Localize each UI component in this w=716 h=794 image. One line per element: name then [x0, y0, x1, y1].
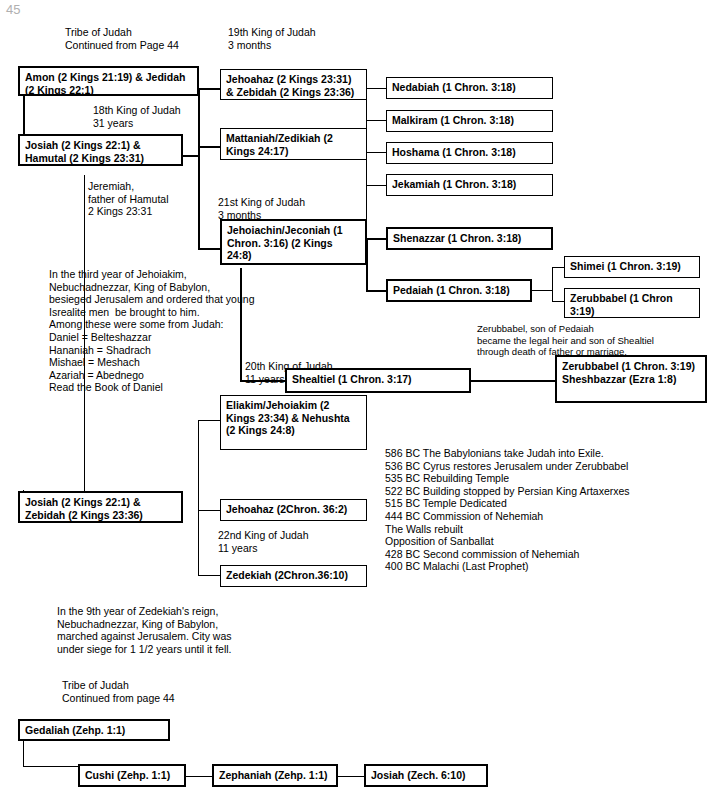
diagram-page: 45 Tribe of Judah Continued from Page 44… — [0, 0, 716, 794]
connector-spine-jehoahaz — [198, 88, 220, 90]
page-number: 45 — [6, 2, 20, 17]
box-malkiram[interactable]: Malkiram (1 Chron. 3:18) — [386, 110, 553, 132]
box-zerubbabel-sheshbazzar[interactable]: Zerubbabel (1 Chron. 3:19) Sheshbazzar (… — [555, 355, 707, 403]
box-jehoahaz-zebidah[interactable]: Jehoahaz (2 Kings 23:31) & Zebidah (2 Ki… — [220, 69, 367, 100]
connector-zedekiah — [198, 575, 220, 576]
connector-malkiram — [366, 120, 386, 121]
king22-label: 22nd King of Judah 11 years — [218, 529, 309, 554]
box-jehoiachin-jeconiah[interactable]: Jehoiachin/Jeconiah (1 Chron. 3:16) (2 K… — [220, 219, 367, 265]
tribe-of-judah-bottom-label: Tribe of Judah Continued from page 44 — [62, 679, 175, 704]
connector-cushi-zephaniah — [186, 776, 212, 777]
connector-jz-spine-h1 — [198, 510, 220, 511]
connector-gedaliah-cushi-h — [23, 766, 78, 767]
connector-pedaiah — [366, 290, 386, 292]
note-timeline: 586 BC The Babylonians take Judah into E… — [385, 447, 630, 573]
box-josiah-zech[interactable]: Josiah (Zech. 6:10) — [364, 764, 488, 787]
connector-josiah-spine — [182, 155, 198, 157]
connector-amon-josiah — [23, 95, 25, 135]
box-josiah-zebidah[interactable]: Josiah (2 Kings 22:1) & Zebidah (2 Kings… — [18, 491, 183, 523]
box-mattaniah-zedikiah[interactable]: Mattaniah/Zedikiah (2 Kings 24:17) — [220, 128, 367, 160]
box-nedabiah[interactable]: Nedabiah (1 Chron. 3:18) — [386, 77, 553, 99]
note-zedekiah-siege: In the 9th year of Zedekiah's reign, Neb… — [57, 605, 232, 655]
connector-jz-spine — [198, 420, 199, 575]
box-zerubbabel-small[interactable]: Zerubbabel (1 Chron 3:19) — [564, 288, 700, 318]
box-shimei[interactable]: Shimei (1 Chron. 3:19) — [564, 256, 700, 278]
box-eliakim-jehoiakim[interactable]: Eliakim/Jehoiakim (2 Kings 23:34) & Nehu… — [220, 395, 367, 450]
box-shealtiel[interactable]: Shealtiel (1 Chron. 3:17) — [285, 368, 471, 393]
king19-label: 19th King of Judah 3 months — [228, 26, 316, 51]
connector-zerubbabel-small — [552, 301, 564, 302]
king21-label: 21st King of Judah 3 months — [218, 196, 305, 221]
connector-hoshama — [366, 152, 386, 153]
connector-jehoahaz-right — [366, 88, 386, 89]
box-amon[interactable]: Amon (2 Kings 21:19) & Jedidah (2 Kings … — [18, 66, 199, 96]
connector-spine-jehoiachin — [198, 248, 220, 250]
note-daniel: In the third year of Jehoiakim, Nebuchad… — [49, 268, 254, 394]
box-cushi[interactable]: Cushi (Zehp. 1:1) — [78, 764, 186, 787]
connector-pedaiah-right — [530, 290, 552, 291]
connector-gedaliah-cushi-v — [23, 738, 24, 766]
box-zephaniah[interactable]: Zephaniah (Zehp. 1:1) — [212, 764, 338, 787]
connector-zephaniah-josiah — [338, 776, 364, 777]
box-zedekiah[interactable]: Zedekiah (2Chron.36:10) — [220, 565, 367, 587]
box-shenazzar[interactable]: Shenazzar (1 Chron. 3:18) — [386, 227, 553, 250]
connector-spine-vertical — [198, 88, 200, 248]
connector-shimei — [552, 267, 564, 268]
tribe-of-judah-top-label: Tribe of Judah Continued from Page 44 — [65, 26, 179, 51]
king18-label: 18th King of Judah 31 years — [93, 104, 181, 129]
box-hoshama[interactable]: Hoshama (1 Chron. 3:18) — [386, 142, 553, 164]
connector-shealtiel-zerubbabel — [470, 380, 555, 382]
connector-eliakim — [198, 420, 220, 421]
box-jekamiah[interactable]: Jekamiah (1 Chron. 3:18) — [386, 174, 553, 196]
box-josiah-hamutal[interactable]: Josiah (2 Kings 22:1) & Hamutal (2 Kings… — [18, 134, 183, 166]
box-pedaiah[interactable]: Pedaiah (1 Chron. 3:18) — [386, 279, 532, 302]
note-zerubbabel: Zerubbabel, son of Pedaiah became the le… — [477, 323, 654, 358]
box-jehoahaz-2chron[interactable]: Jehoahaz (2Chron. 36:2) — [220, 499, 367, 521]
connector-children-spine — [366, 88, 367, 240]
connector-pedaiah-children-spine — [552, 267, 553, 301]
note-jeremiah: Jeremiah, father of Hamutal 2 Kings 23:3… — [88, 180, 169, 218]
connector-spine-mattaniah — [198, 146, 220, 148]
connector-shenazzar — [366, 238, 386, 240]
connector-jekamiah — [366, 185, 386, 186]
box-gedaliah[interactable]: Gedaliah (Zehp. 1:1) — [18, 719, 170, 741]
